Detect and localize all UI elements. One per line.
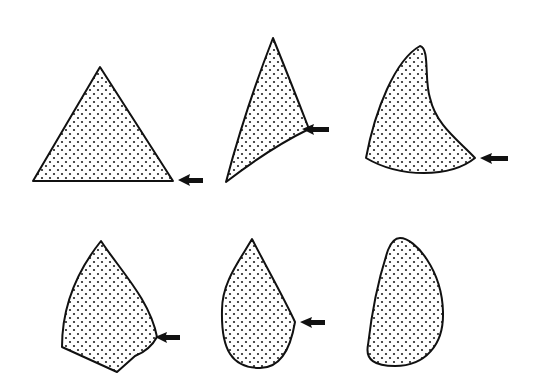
teardrop-shape bbox=[222, 239, 295, 368]
elongated-triangle-shape bbox=[226, 38, 309, 182]
kite-shape bbox=[62, 241, 157, 372]
oval-shape bbox=[367, 238, 443, 366]
arrow-left-icon bbox=[480, 153, 508, 164]
triangle-shape bbox=[33, 67, 173, 181]
shape-2-elongated-triangle bbox=[226, 38, 329, 182]
arrow-left-icon bbox=[300, 317, 325, 328]
shape-4-kite-shape bbox=[62, 241, 180, 372]
horn-shape bbox=[366, 46, 475, 173]
arrow-left-icon bbox=[155, 332, 180, 343]
shape-6-oval-shape bbox=[367, 238, 443, 366]
shape-5-teardrop-shape bbox=[222, 239, 325, 368]
diagram-canvas bbox=[0, 0, 543, 391]
shape-1-triangle bbox=[33, 67, 203, 186]
shape-3-horn-shape bbox=[366, 46, 508, 173]
arrow-left-icon bbox=[178, 174, 203, 186]
